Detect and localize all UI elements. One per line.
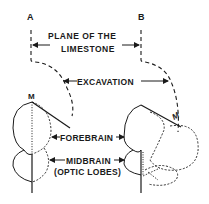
label-plane-line2: LIMESTONE xyxy=(61,44,115,54)
label-m-left: M xyxy=(28,92,35,101)
label-forebrain: FOREBRAIN xyxy=(60,133,113,143)
label-point-b: B xyxy=(138,12,145,22)
diagram-canvas: A B PLANE OF THE LIMESTONE EXCAVATION M … xyxy=(0,0,209,204)
plane-line-a xyxy=(31,30,73,116)
left-brain-outline xyxy=(13,102,32,182)
label-m-right: M xyxy=(170,111,181,122)
label-plane-line1: PLANE OF THE xyxy=(48,31,116,41)
label-excavation: EXCAVATION xyxy=(77,77,134,87)
right-rotated-lobe-dotted xyxy=(150,125,198,170)
label-midbrain: MIDBRAIN xyxy=(66,156,111,166)
label-optic-lobes: (OPTIC LOBES) xyxy=(54,167,121,177)
left-m-line xyxy=(32,102,70,128)
right-forebrain-dotted xyxy=(150,112,164,160)
right-brain-outline xyxy=(124,105,141,175)
label-point-a: A xyxy=(27,12,34,22)
right-brain-figure: M xyxy=(124,105,198,193)
brain-excavation-diagram: A B PLANE OF THE LIMESTONE EXCAVATION M … xyxy=(0,0,209,204)
left-forebrain-dotted xyxy=(32,102,51,154)
